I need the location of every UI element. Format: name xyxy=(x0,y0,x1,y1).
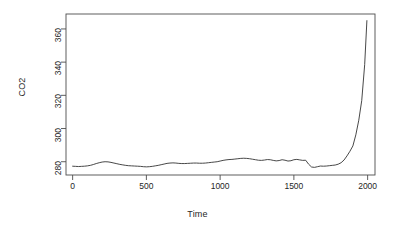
x-tick-label: 1500 xyxy=(284,181,303,191)
y-tick-label: 320 xyxy=(53,94,63,108)
x-tick-label: 500 xyxy=(139,181,153,191)
co2-time-series-figure: CO2 Time 0500100015002000 28030032034036… xyxy=(0,0,395,234)
x-tick-label: 0 xyxy=(70,181,75,191)
x-axis-title: Time xyxy=(0,209,395,219)
y-tick-label: 300 xyxy=(53,128,63,142)
x-tick-label: 2000 xyxy=(358,181,377,191)
y-tick-label: 360 xyxy=(53,28,63,42)
y-tick-label: 340 xyxy=(53,61,63,75)
y-axis-title: CO2 xyxy=(17,57,27,117)
y-tick-label: 280 xyxy=(53,161,63,175)
x-tick-label: 1000 xyxy=(211,181,230,191)
